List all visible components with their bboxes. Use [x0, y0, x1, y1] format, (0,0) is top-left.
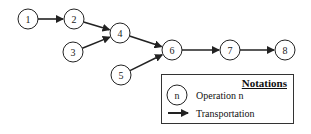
legend-transport-label: Transportation	[196, 108, 255, 119]
arrow-3-to-4	[82, 37, 110, 48]
legend-title: Notations	[242, 77, 287, 89]
legend-box: Notations Operation n Transportation	[161, 74, 294, 124]
legend-operation-label: Operation n	[196, 90, 244, 101]
arrow-2-to-4	[84, 22, 110, 30]
operation-number: 6	[170, 45, 175, 56]
operation-node-7: 7	[220, 40, 240, 60]
operation-node-8: 8	[275, 40, 295, 60]
operation-number: 4	[118, 28, 123, 39]
operation-node-3: 3	[63, 42, 83, 62]
operation-number: 5	[119, 70, 124, 81]
arrow-5-to-6	[130, 55, 162, 71]
operation-number: 7	[228, 45, 233, 56]
operation-number: 1	[26, 14, 31, 25]
operation-node-6: 6	[162, 40, 182, 60]
operation-number: 3	[71, 47, 76, 58]
operation-number: 2	[72, 14, 77, 25]
operation-node-4: 4	[110, 23, 130, 43]
arrow-4-to-6	[130, 36, 162, 46]
operation-number: 8	[283, 45, 288, 56]
operation-node-5: 5	[111, 65, 131, 85]
operation-node-1: 1	[18, 9, 38, 29]
operation-node-2: 2	[64, 9, 84, 29]
